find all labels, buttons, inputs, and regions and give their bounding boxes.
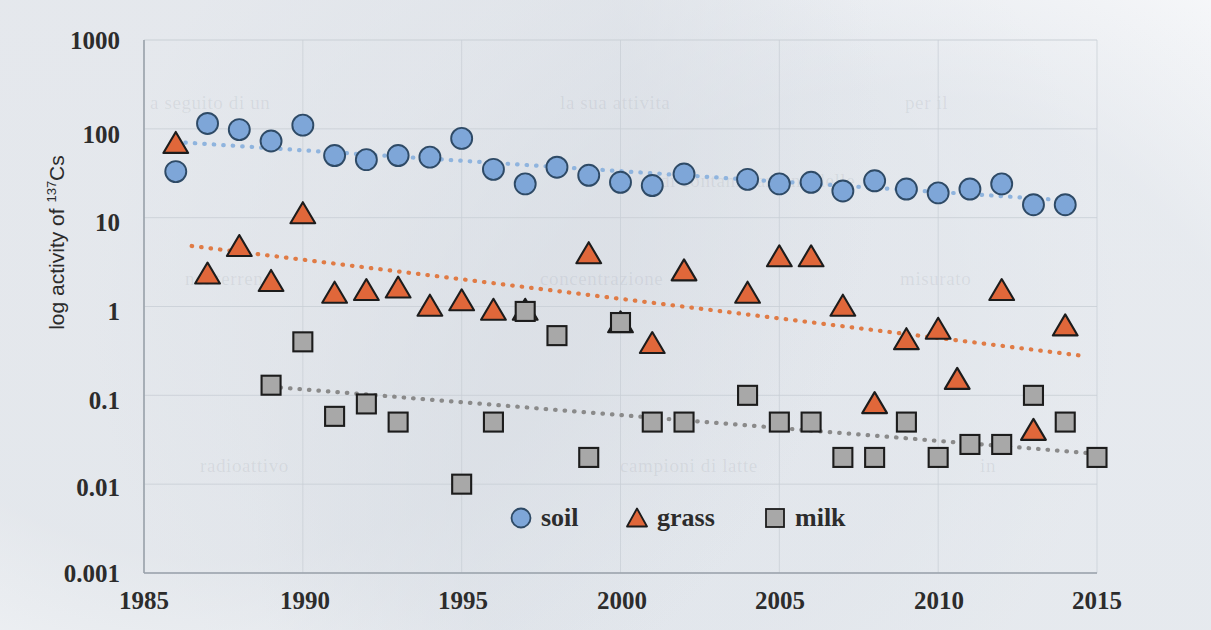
- point-milk: [833, 448, 852, 467]
- y-tick-0.1: 0.1: [0, 387, 120, 415]
- point-milk: [897, 413, 916, 432]
- point-soil: [801, 172, 822, 193]
- point-soil: [896, 179, 917, 200]
- point-soil: [928, 182, 949, 203]
- legend-square-icon: [762, 505, 788, 531]
- point-soil: [546, 157, 567, 178]
- point-milk: [865, 448, 884, 467]
- point-grass: [672, 259, 697, 280]
- point-grass: [322, 282, 347, 303]
- point-grass: [576, 242, 601, 263]
- point-soil: [737, 169, 758, 190]
- point-grass: [481, 299, 506, 320]
- point-soil: [674, 164, 695, 185]
- legend-label-milk: milk: [795, 503, 846, 533]
- point-grass: [945, 368, 970, 389]
- point-soil: [388, 145, 409, 166]
- x-tick-2000: 2000: [582, 587, 662, 615]
- point-grass: [799, 245, 824, 266]
- point-milk: [579, 448, 598, 467]
- point-soil: [292, 115, 313, 136]
- point-soil: [832, 180, 853, 201]
- point-grass: [227, 235, 252, 256]
- point-grass: [354, 279, 379, 300]
- point-soil: [1055, 194, 1076, 215]
- point-milk: [389, 413, 408, 432]
- point-grass: [290, 202, 315, 223]
- x-tick-2010: 2010: [899, 587, 979, 615]
- plot-area: [0, 0, 1211, 630]
- point-milk: [992, 435, 1011, 454]
- legend-item-milk: milk: [762, 503, 846, 533]
- point-grass: [195, 263, 220, 284]
- point-soil: [642, 175, 663, 196]
- chart-figure: 1000 100 10 1 0.1 0.01 0.001 log activit…: [0, 0, 1211, 630]
- legend-label-grass: grass: [657, 503, 715, 533]
- point-grass: [418, 295, 443, 316]
- point-grass: [926, 318, 951, 339]
- point-soil: [483, 159, 504, 180]
- point-soil: [165, 161, 186, 182]
- legend-item-soil: soil: [508, 503, 579, 533]
- point-milk: [262, 376, 281, 395]
- point-milk: [611, 313, 630, 332]
- point-grass: [735, 282, 760, 303]
- x-tick-1990: 1990: [265, 587, 345, 615]
- point-milk: [547, 326, 566, 345]
- point-soil: [864, 170, 885, 191]
- legend-triangle-icon: [624, 505, 650, 531]
- point-soil: [769, 173, 790, 194]
- point-milk: [1024, 386, 1043, 405]
- point-milk: [452, 475, 471, 494]
- point-grass: [259, 270, 284, 291]
- point-grass: [1053, 314, 1078, 335]
- point-soil: [356, 149, 377, 170]
- point-soil: [261, 130, 282, 151]
- point-milk: [1088, 448, 1107, 467]
- point-milk: [484, 413, 503, 432]
- point-grass: [386, 277, 411, 298]
- y-axis-label-main: log activity of: [45, 203, 68, 330]
- x-tick-2005: 2005: [740, 587, 820, 615]
- point-milk: [293, 332, 312, 351]
- series-milk: [262, 302, 1107, 494]
- point-milk: [325, 407, 344, 426]
- point-milk: [802, 413, 821, 432]
- point-soil: [197, 113, 218, 134]
- x-tick-1985: 1985: [104, 587, 184, 615]
- point-milk: [960, 435, 979, 454]
- point-grass: [640, 332, 665, 353]
- legend-label-soil: soil: [541, 503, 579, 533]
- point-milk: [516, 302, 535, 321]
- point-soil: [578, 165, 599, 186]
- legend-circle-icon: [508, 505, 534, 531]
- point-milk: [643, 413, 662, 432]
- y-tick-1000: 1000: [0, 27, 120, 55]
- legend-item-grass: grass: [624, 503, 715, 533]
- y-axis-label-tail: Cs: [45, 155, 68, 181]
- point-soil: [229, 119, 250, 140]
- y-tick-0.001: 0.001: [0, 560, 120, 588]
- x-tick-1995: 1995: [423, 587, 503, 615]
- y-tick-0.01: 0.01: [0, 474, 120, 502]
- point-grass: [767, 245, 792, 266]
- point-milk: [1056, 413, 1075, 432]
- point-grass: [894, 328, 919, 349]
- point-milk: [770, 413, 789, 432]
- y-axis-label: log activity of 137Cs: [44, 133, 69, 353]
- point-grass: [989, 279, 1014, 300]
- point-grass: [449, 289, 474, 310]
- point-soil: [991, 173, 1012, 194]
- point-soil: [959, 179, 980, 200]
- point-soil: [1023, 194, 1044, 215]
- point-soil: [451, 128, 472, 149]
- point-milk: [675, 413, 694, 432]
- x-tick-2015: 2015: [1057, 587, 1137, 615]
- point-soil: [324, 145, 345, 166]
- point-grass: [1021, 419, 1046, 440]
- point-soil: [610, 172, 631, 193]
- point-milk: [738, 386, 757, 405]
- point-milk: [929, 448, 948, 467]
- point-soil: [419, 147, 440, 168]
- point-milk: [357, 394, 376, 413]
